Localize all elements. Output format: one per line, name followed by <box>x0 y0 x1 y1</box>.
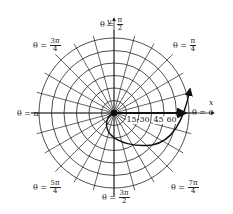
polar-diagram: θ = 0θ = π4θ = π2θ = 3π4θ = πθ = 5π4θ = … <box>0 0 233 214</box>
radial-tick-label: 45 <box>153 116 164 124</box>
radial-line <box>93 36 114 113</box>
angle-label-theta-pi-4: θ = π4 <box>173 38 196 53</box>
radial-line <box>114 113 135 190</box>
y-axis-label: y <box>107 18 111 26</box>
radial-tick-label: 15 <box>126 116 137 124</box>
radial-line <box>37 113 114 134</box>
angle-label-theta-3pi-4: θ = 3π4 <box>33 38 61 53</box>
radial-line <box>93 113 114 190</box>
radial-line <box>55 54 114 113</box>
angle-label-theta-pi-2: θ = π2 <box>100 17 123 32</box>
angle-label-theta-3pi-2: θ = 3π2 <box>102 190 130 205</box>
angle-label-theta-0: θ = 0 <box>192 109 214 117</box>
radial-line <box>114 92 191 113</box>
radial-line <box>55 113 114 172</box>
radial-line <box>114 54 173 113</box>
radial-tick-label: 60 <box>166 116 177 124</box>
radial-line <box>114 36 135 113</box>
radial-tick-label: 30 <box>139 116 150 124</box>
x-axis-label: x <box>209 99 213 107</box>
angle-label-theta-pi: θ = π <box>17 110 39 118</box>
angle-label-theta-7pi-4: θ = 7π4 <box>171 180 199 195</box>
angle-label-theta-5pi-4: θ = 5π4 <box>33 180 61 195</box>
radial-line <box>37 92 114 113</box>
